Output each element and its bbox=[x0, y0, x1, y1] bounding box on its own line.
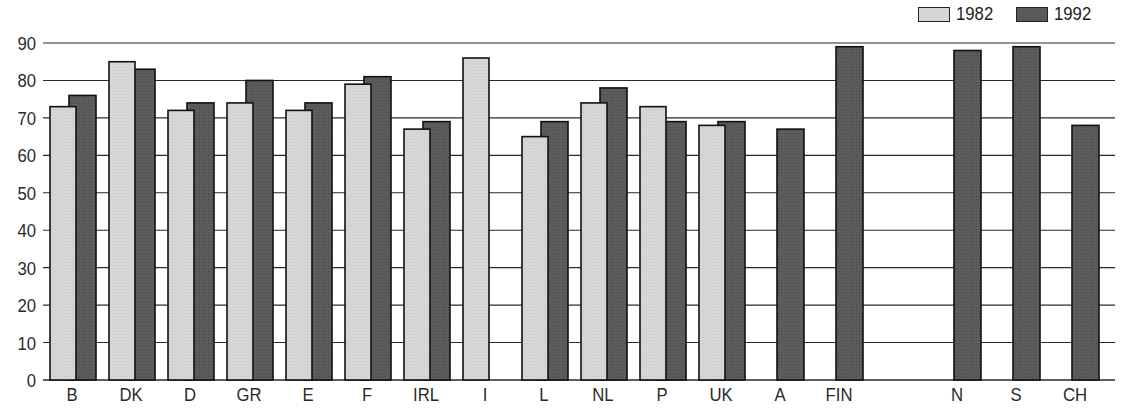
bar-1982 bbox=[522, 137, 548, 380]
y-axis-tick-labels: 0102030405060708090 bbox=[17, 33, 36, 391]
bar-1982 bbox=[581, 103, 607, 380]
x-axis-category-labels: BDKDGREFIRLILNLPUKAFINNSCH bbox=[66, 384, 1087, 405]
y-tick-label: 0 bbox=[27, 370, 36, 391]
bar-1982 bbox=[404, 129, 430, 380]
y-tick-label: 10 bbox=[17, 333, 36, 354]
y-tick-label: 30 bbox=[17, 258, 36, 279]
y-tick-label: 20 bbox=[17, 295, 36, 316]
x-category-label: L bbox=[539, 384, 548, 405]
y-tick-label: 60 bbox=[17, 145, 36, 166]
x-category-label: I bbox=[483, 384, 488, 405]
bar-1992 bbox=[836, 47, 863, 380]
bar-1982 bbox=[50, 107, 76, 380]
bar-1992 bbox=[1013, 47, 1040, 380]
x-category-label: CH bbox=[1063, 384, 1087, 405]
bar-1982 bbox=[109, 62, 135, 380]
bar-chart: 0102030405060708090 BDKDGREFIRLILNLPUKAF… bbox=[0, 0, 1129, 411]
y-tick-label: 40 bbox=[17, 220, 36, 241]
bar-1982 bbox=[699, 125, 725, 380]
x-category-label: A bbox=[774, 384, 785, 405]
y-tick-label: 80 bbox=[17, 70, 36, 91]
x-category-label: N bbox=[951, 384, 963, 405]
x-category-label: B bbox=[66, 384, 77, 405]
x-category-label: DK bbox=[119, 384, 142, 405]
x-category-label: D bbox=[184, 384, 196, 405]
y-tick-label: 70 bbox=[17, 108, 36, 129]
x-category-label: UK bbox=[709, 384, 732, 405]
bars bbox=[50, 47, 1099, 380]
bar-1992 bbox=[954, 50, 981, 380]
y-tick-label: 90 bbox=[17, 33, 36, 54]
bar-1982 bbox=[286, 110, 312, 380]
x-category-label: F bbox=[362, 384, 372, 405]
bar-1982 bbox=[463, 58, 489, 380]
x-category-label: P bbox=[656, 384, 667, 405]
bar-1992 bbox=[777, 129, 804, 380]
y-tick-label: 50 bbox=[17, 183, 36, 204]
x-category-label: FIN bbox=[826, 384, 853, 405]
bar-1982 bbox=[227, 103, 253, 380]
x-category-label: IRL bbox=[413, 384, 439, 405]
bar-1982 bbox=[345, 84, 371, 380]
bar-1982 bbox=[640, 107, 666, 380]
x-category-label: GR bbox=[236, 384, 261, 405]
x-category-label: E bbox=[302, 384, 313, 405]
x-category-label: NL bbox=[592, 384, 613, 405]
bar-1982 bbox=[168, 110, 194, 380]
bar-1992 bbox=[1072, 125, 1099, 380]
x-category-label: S bbox=[1010, 384, 1021, 405]
